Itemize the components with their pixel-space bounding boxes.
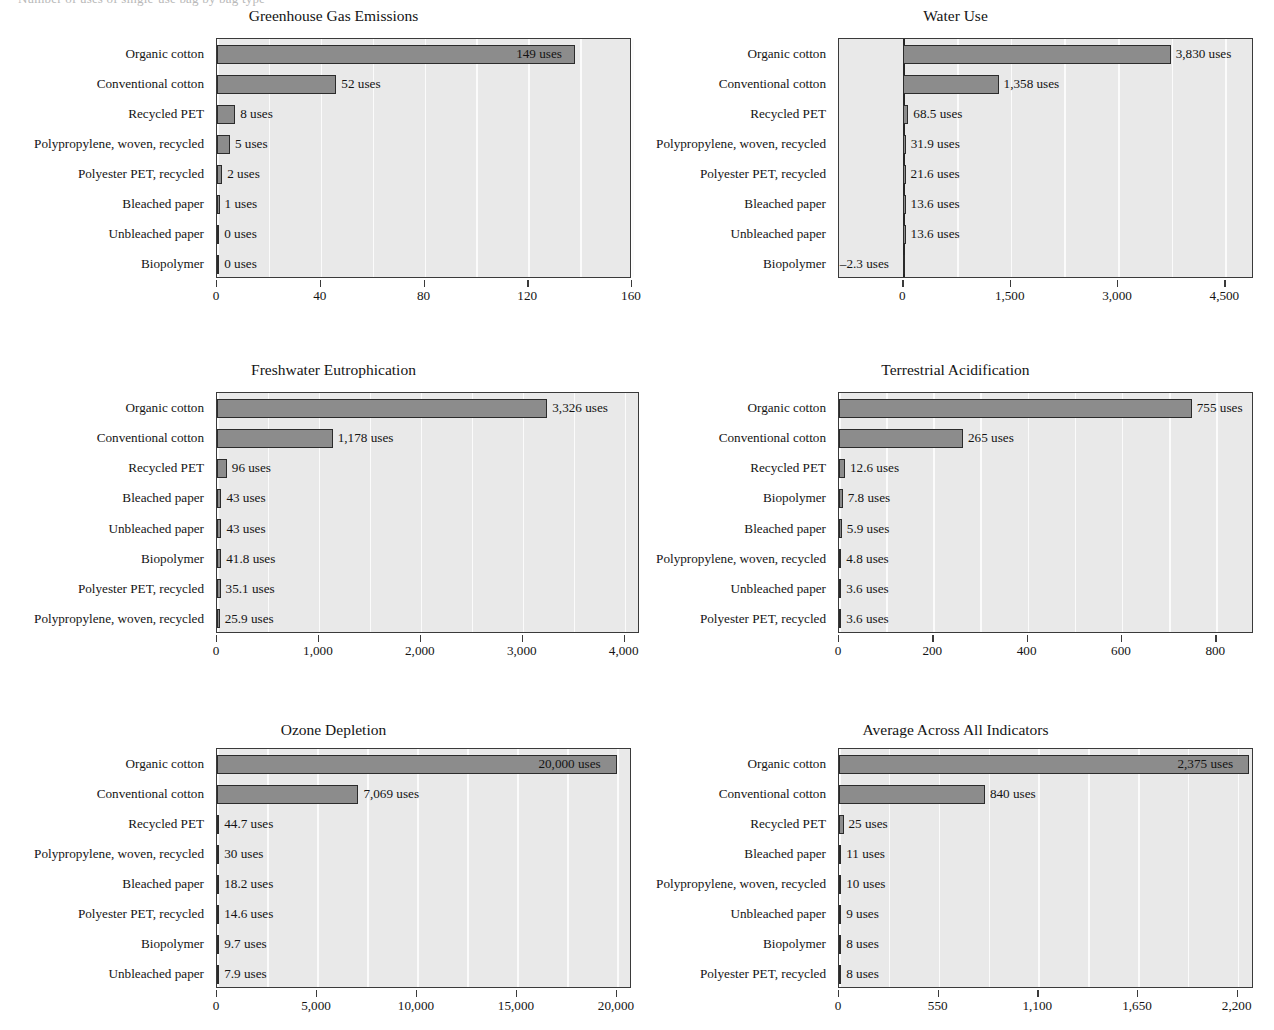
category-label: Biopolymer [141,257,204,270]
bar-row: Biopolymer–2.3 uses [839,255,1252,274]
value-label: 52 uses [341,77,380,90]
category-label: Organic cotton [126,757,205,770]
axis-tick [420,635,421,642]
chart-title: Average Across All Indicators [677,721,1234,739]
value-label: 13.6 uses [911,227,960,240]
bar [839,519,842,538]
plot-area: Organic cotton20,000 usesConventional co… [216,748,631,988]
value-label: 0 uses [224,257,257,270]
bar [839,459,845,478]
bar [839,815,844,834]
category-label: Unbleached paper [108,522,204,535]
axis-tick [1224,280,1225,287]
category-label: Conventional cotton [97,787,204,800]
bar-row: Organic cotton149 uses [217,45,630,64]
category-label: Polypropylene, woven, recycled [656,552,826,565]
bar-row: Conventional cotton840 uses [839,785,1252,804]
axis-tick [522,635,523,642]
bar-row: Unbleached paper3.6 uses [839,579,1252,598]
x-axis: 01,5003,0004,500 [838,280,1253,302]
plot-area: Organic cotton149 usesConventional cotto… [216,38,631,278]
value-label: 96 uses [232,462,271,475]
axis-tick [527,280,528,287]
bar [217,905,219,924]
bar [217,429,333,448]
value-label: 3,830 uses [1176,47,1232,60]
axis-tick [616,990,617,997]
axis-tick [932,635,933,642]
value-label: 840 uses [990,787,1036,800]
bar [903,105,908,124]
bar-row: Bleached paper11 uses [839,845,1252,864]
chart-panel-ozone-depletion: Ozone Depletion Organic cotton20,000 use… [0,710,637,1030]
category-label: Organic cotton [748,757,827,770]
axis-tick [516,990,517,997]
category-label: Biopolymer [141,937,204,950]
axis-tick [624,635,625,642]
value-label: 1 uses [225,197,258,210]
bar [839,579,841,598]
bar-row: Polyester PET, recycled14.6 uses [217,905,630,924]
bar-row: Polypropylene, woven, recycled31.9 uses [839,135,1252,154]
value-label: 31.9 uses [911,137,960,150]
bar-row: Conventional cotton265 uses [839,429,1252,448]
bar [839,429,963,448]
bar [903,75,998,94]
value-label: –2.3 uses [840,257,889,270]
category-label: Polyester PET, recycled [78,167,204,180]
axis-tick [1121,635,1122,642]
bar-row: Recycled PET25 uses [839,815,1252,834]
axis-tick-label: 40 [313,288,326,304]
category-label: Bleached paper [122,877,204,890]
category-label: Polypropylene, woven, recycled [34,137,204,150]
value-label: 68.5 uses [913,107,962,120]
bar [217,845,219,864]
bar-row: Polypropylene, woven, recycled10 uses [839,875,1252,894]
axis-tick [838,635,839,642]
bar-row: Biopolymer7.8 uses [839,489,1252,508]
value-label: 5.9 uses [847,522,890,535]
axis-tick [1215,635,1216,642]
category-label: Recycled PET [750,817,826,830]
bar-row: Polypropylene, woven, recycled25.9 uses [217,609,638,628]
bar [217,935,219,954]
chart-title: Terrestrial Acidification [677,361,1234,379]
axis-tick [416,990,417,997]
value-label: 35.1 uses [226,582,275,595]
axis-tick-label: 2,200 [1222,998,1252,1014]
value-label: 7,069 uses [363,787,419,800]
axis-tick [216,635,217,642]
bar [217,489,221,508]
value-label: 1,358 uses [1004,77,1060,90]
category-label: Recycled PET [128,462,204,475]
bar [217,75,336,94]
category-label: Polyester PET, recycled [700,967,826,980]
bar-row: Polyester PET, recycled8 uses [839,965,1252,984]
value-label: 10 uses [846,877,885,890]
bar-row: Bleached paper18.2 uses [217,875,630,894]
bar [839,609,841,628]
axis-tick-label: 0 [899,288,906,304]
x-axis: 05501,1001,6502,200 [838,990,1253,1012]
bar-row: Organic cotton20,000 uses [217,755,630,774]
x-axis: 01,0002,0003,0004,000 [216,635,639,657]
category-label: Unbleached paper [730,227,826,240]
chart-title: Ozone Depletion [60,721,607,739]
bar-row: Recycled PET8 uses [217,105,630,124]
bar [839,965,841,984]
chart-panel-average-across-all-indicators: Average Across All Indicators Organic co… [637,710,1274,1030]
bar-row: Bleached paper13.6 uses [839,195,1252,214]
bar [839,399,1192,418]
value-label: 25 uses [849,817,888,830]
value-label: 13.6 uses [911,197,960,210]
value-label: 7.8 uses [848,492,891,505]
bar-row: Polypropylene, woven, recycled30 uses [217,845,630,864]
bar [217,965,219,984]
axis-tick-label: 10,000 [398,998,434,1014]
axis-tick-label: 0 [213,998,220,1014]
bar-row: Polypropylene, woven, recycled5 uses [217,135,630,154]
bar-row: Recycled PET44.7 uses [217,815,630,834]
plot-area: Organic cotton3,326 usesConventional cot… [216,392,639,633]
bar [217,105,235,124]
axis-tick-label: 0 [213,288,220,304]
